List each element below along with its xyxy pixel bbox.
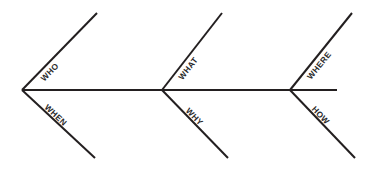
fishbone-diagram: WHOWHATWHEREWHENWHYHOW (0, 0, 370, 170)
bone-line-what (162, 13, 222, 90)
bone-label-when: WHEN (43, 102, 70, 128)
bone-label-who: WHO (39, 61, 61, 84)
bone-lines-group (22, 13, 355, 158)
bone-line-where (290, 13, 352, 90)
bone-line-who (22, 13, 97, 90)
fishbone-canvas: WHOWHATWHEREWHENWHYHOW (0, 0, 370, 170)
